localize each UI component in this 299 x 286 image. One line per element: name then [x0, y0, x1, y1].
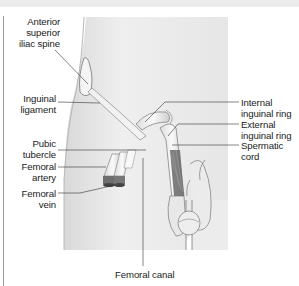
- label-anterior-superior-iliac-spine: Anterior superior iliac spine: [8, 16, 60, 49]
- label-femoral-vein: Femoral vein: [8, 188, 56, 210]
- label-inguinal-ligament: Inguinal ligament: [8, 93, 56, 115]
- label-femoral-artery: Femoral artery: [8, 161, 56, 183]
- label-spermatic-cord: Spermatic cord: [241, 140, 299, 162]
- label-internal-inguinal-ring: Internal inguinal ring: [241, 97, 299, 119]
- label-external-inguinal-ring: External inguinal ring: [241, 119, 299, 141]
- label-femoral-canal: Femoral canal: [115, 269, 195, 280]
- label-pubic-tubercle: Pubic tubercle: [8, 138, 56, 160]
